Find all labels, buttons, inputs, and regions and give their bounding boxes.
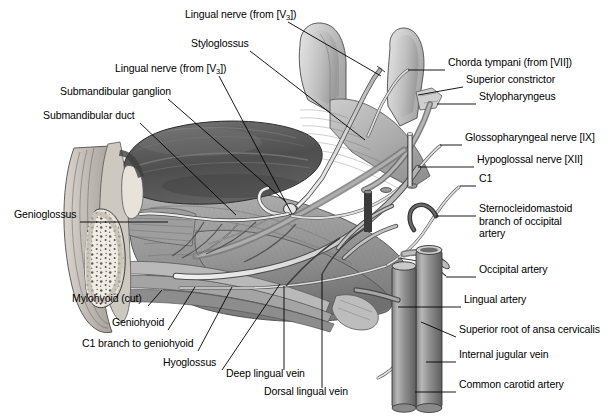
label-submandibular-duct: Submandibular duct [43,109,135,122]
label-hypoglossal-nerve: Hypoglossal nerve [XII] [477,153,583,166]
label-occipital-artery: Occipital artery [479,263,547,276]
label-styloglossus: Styloglossus [191,37,249,50]
label-lingual-artery: Lingual artery [464,293,526,306]
anatomy-figure: Lingual nerve (from [V3])StyloglossusLin… [0,0,609,419]
label-lingual-nerve-v3-lower: Lingual nerve (from [V3]) [115,62,226,77]
label-c1: C1 [479,172,492,185]
label-mylohyoid-cut: Mylohyoid (cut) [72,292,142,305]
label-c1-branch-to-geniohyoid: C1 branch to geniohyoid [82,337,194,350]
label-sternocleidomastoid-branch: Sternocleidomastoid branch of occipital … [479,202,572,240]
label-submandibular-ganglion: Submandibular ganglion [60,85,171,98]
label-common-carotid-artery: Common carotid artery [459,378,564,391]
label-hyoglossus: Hyoglossus [163,356,216,369]
label-glossopharyngeal-nerve: Glossopharyngeal nerve [IX] [465,131,595,144]
label-internal-jugular-vein: Internal jugular vein [459,348,549,361]
label-stylopharyngeus: Stylopharyngeus [479,90,556,103]
label-genioglossus: Genioglossus [14,208,76,221]
label-chorda-tympani: Chorda tympani (from [VII]) [448,56,572,69]
label-lingual-nerve-v3-upper: Lingual nerve (from [V3]) [185,8,296,23]
label-superior-root-ansa-cervicalis: Superior root of ansa cervicalis [459,323,600,336]
label-deep-lingual-vein: Deep lingual vein [226,367,305,380]
label-superior-constrictor: Superior constrictor [466,73,555,86]
label-geniohyoid: Geniohyoid [112,316,164,329]
label-dorsal-lingual-vein: Dorsal lingual vein [264,385,348,398]
